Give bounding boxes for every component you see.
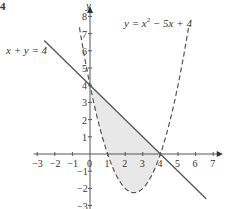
- line-label: x + y = 4: [6, 44, 47, 56]
- y-tick-label: 1: [82, 132, 87, 143]
- x-tick-label: 1: [105, 158, 110, 169]
- y-tick-label: −1: [77, 166, 88, 177]
- x-tick-label: −2: [50, 158, 61, 169]
- y-axis-label: y: [86, 0, 91, 11]
- y-tick-label: 3: [82, 97, 87, 108]
- parabola-label-y: y = x: [124, 17, 147, 29]
- parabola-label: y = x2 − 5x + 4: [124, 16, 192, 29]
- y-tick-label: 2: [82, 115, 87, 126]
- x-tick-label: 0: [87, 158, 92, 169]
- x-tick-label: −3: [32, 158, 43, 169]
- x-axis-arrow-icon: [217, 151, 223, 157]
- chart-plot: −3−2−101234567−3−2−112345678: [0, 0, 228, 209]
- x-tick-label: 5: [175, 158, 180, 169]
- shaded-region: [90, 85, 160, 193]
- x-tick-label: 2: [122, 158, 127, 169]
- x-tick-label: 6: [193, 158, 198, 169]
- x-tick-label: 3: [140, 158, 145, 169]
- y-tick-label: −3: [77, 201, 88, 209]
- parabola-label-rest: − 5x + 4: [150, 17, 192, 29]
- x-tick-label: 4: [157, 158, 162, 169]
- y-tick-label: 8: [82, 11, 87, 22]
- x-tick-label: 7: [210, 158, 215, 169]
- y-tick-label: 7: [82, 29, 87, 40]
- y-tick-label: −2: [77, 183, 88, 194]
